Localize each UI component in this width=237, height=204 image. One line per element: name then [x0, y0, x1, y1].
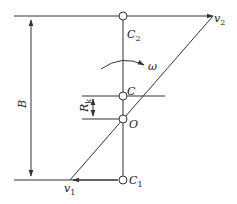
label-v2: v2: [214, 12, 225, 27]
point-o: [119, 115, 127, 123]
label-rk: Rk: [78, 99, 93, 113]
label-omega: ω: [148, 60, 157, 73]
label-c: C: [127, 85, 136, 98]
label-v1: v1: [64, 182, 75, 197]
point-c1: [119, 176, 127, 184]
label-b: B: [16, 100, 29, 109]
label-c1: C1: [129, 174, 143, 189]
point-c: [119, 92, 127, 100]
label-o: O: [129, 118, 138, 131]
point-c2: [119, 12, 127, 20]
velocity-distribution-line: [70, 16, 213, 180]
label-c2: C2: [127, 28, 141, 43]
kinematic-diagram: v2 C2 ω C O C1 v1 B Rk: [0, 0, 237, 204]
